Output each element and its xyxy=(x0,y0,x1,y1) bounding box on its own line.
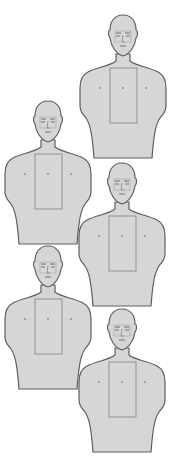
silhouette-target-icon xyxy=(79,162,165,308)
silhouette-target-icon xyxy=(79,308,165,454)
silhouette-target-1: target-1 xyxy=(80,14,166,160)
silhouette-target-5: target-5 xyxy=(79,308,165,454)
silhouette-target-icon xyxy=(80,14,166,160)
silhouette-target-3: target-3 xyxy=(79,162,165,308)
targets-canvas: target-1 target-2 target-3 target-4 targ… xyxy=(0,0,180,464)
